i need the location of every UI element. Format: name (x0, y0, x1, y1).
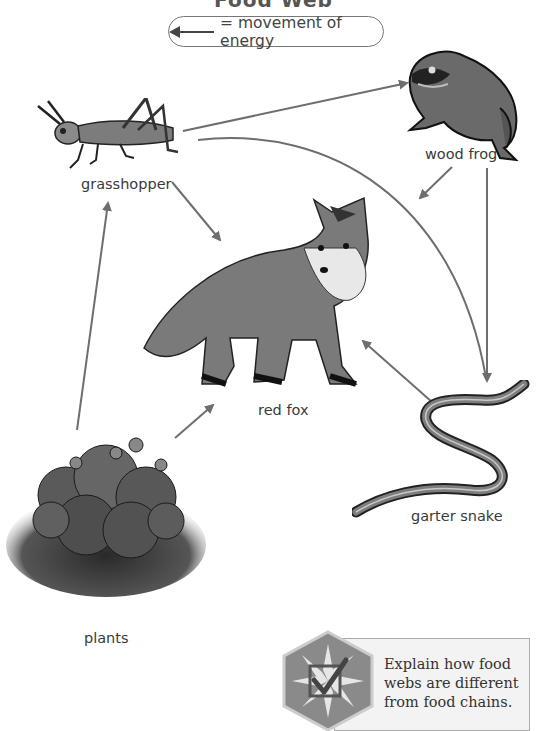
label-plants: plants (84, 630, 129, 646)
label-garter-snake: garter snake (411, 508, 503, 524)
grasshopper-illustration (28, 98, 188, 178)
callout-question-text: Explain how food webs are different from… (384, 655, 534, 712)
plants-illustration (6, 425, 216, 605)
red-fox-illustration (134, 188, 384, 388)
arrow-grasshopper-to-frog (183, 83, 407, 131)
checkmark-badge-icon (280, 630, 376, 731)
arrow-frog-to-fox (420, 167, 452, 198)
label-red-fox: red fox (258, 402, 309, 418)
garter-snake-illustration (352, 380, 532, 520)
arrow-plants-to-grasshopper (77, 203, 108, 430)
label-wood-frog: wood frog (425, 146, 497, 162)
